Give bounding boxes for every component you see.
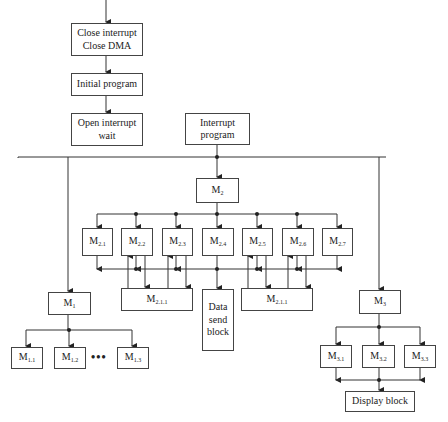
display-block: Display block [345, 391, 415, 412]
close-interrupt-box: Close interrupt Close DMA [71, 23, 143, 56]
module-m2: M2 [196, 178, 239, 203]
data-send-label: Data send block [207, 301, 229, 339]
module-m2-2: M2.2 [121, 228, 153, 256]
module-m3-2: M3.2 [362, 345, 395, 368]
module-m2-1-1-right: M2.1.1 [241, 288, 313, 311]
interrupt-program-label: Interrupt program [200, 117, 235, 142]
open-interrupt-box: Open interrupt wait [71, 113, 143, 146]
module-m2-1-1-left: M2.1.1 [121, 288, 193, 311]
module-m1-2: M1.2 [54, 347, 86, 369]
module-m2-5: M2.5 [242, 228, 273, 256]
module-m1: M1 [48, 292, 91, 315]
open-interrupt-label: Open interrupt wait [78, 117, 137, 142]
data-send-block: Data send block [202, 289, 234, 351]
module-m2-1: M2.1 [82, 228, 113, 256]
module-m2-7: M2.7 [322, 228, 353, 256]
display-block-label: Display block [352, 395, 408, 408]
ellipsis: ••• [91, 350, 107, 365]
module-m1-3: M1.3 [117, 347, 149, 369]
module-m3-3: M3.3 [404, 345, 436, 368]
initial-program-label: Initial program [77, 78, 137, 91]
close-interrupt-label: Close interrupt Close DMA [77, 27, 137, 52]
interrupt-program-box: Interrupt program [185, 113, 250, 145]
module-m3-1: M3.1 [320, 345, 352, 368]
module-m2-3: M2.3 [162, 228, 193, 256]
module-m2-6: M2.6 [282, 228, 314, 256]
module-m2-4: M2.4 [202, 228, 234, 256]
module-m3: M3 [359, 290, 401, 314]
module-m1-1: M1.1 [11, 347, 43, 369]
initial-program-box: Initial program [71, 73, 143, 96]
module-m2-label: M2 [212, 184, 224, 198]
